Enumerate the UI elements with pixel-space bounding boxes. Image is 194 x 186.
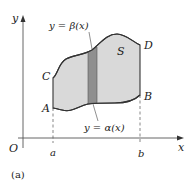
point-a-label: A (41, 102, 50, 115)
region-label: S (117, 45, 125, 58)
tick-b-label: b (138, 148, 144, 159)
y-axis-arrow-icon (21, 15, 26, 22)
upper-curve-label: y = β(x) (48, 20, 89, 31)
lower-curve-label: y = α(x) (83, 122, 125, 133)
tick-a-label: a (50, 147, 56, 158)
origin-label: O (9, 142, 18, 155)
x-axis-arrow-icon (177, 136, 184, 141)
point-c-label: C (42, 70, 51, 83)
point-b-label: B (143, 90, 152, 103)
point-d-label: D (143, 39, 153, 52)
alpha-leader (93, 104, 98, 121)
strip (88, 47, 97, 104)
y-axis-label: y (11, 12, 19, 25)
x-axis-label: x (178, 141, 185, 154)
beta-leader (89, 32, 92, 49)
figure-caption: (a) (11, 169, 25, 180)
region-diagram: y x O a b A C B D S y = β(x) y = α(x) (a… (0, 0, 194, 186)
